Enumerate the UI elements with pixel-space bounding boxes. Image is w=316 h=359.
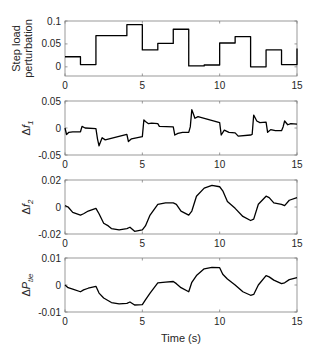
figure: 00.050.1051015Step loadperturbation-0.05… <box>0 0 316 359</box>
y-tick-label: 0.01 <box>42 253 62 264</box>
x-tick-label: 0 <box>62 80 68 91</box>
x-tick-label: 5 <box>140 159 146 170</box>
y-tick-label: 0 <box>55 61 61 72</box>
x-tick-label: 0 <box>62 159 68 170</box>
axes-box <box>65 101 297 155</box>
panel-3: -0.0200.02051015Δf2 <box>20 175 303 250</box>
x-tick-label: 5 <box>140 316 146 327</box>
y-axis-label: Δf2 <box>20 199 35 214</box>
panel-4: -0.0100.01051015ΔPtieTime (s) <box>20 253 303 345</box>
y-tick-label: 0 <box>55 280 61 291</box>
data-trace <box>65 267 297 305</box>
x-tick-label: 15 <box>291 316 303 327</box>
y-tick-label: -0.02 <box>38 229 61 240</box>
x-tick-label: 15 <box>291 80 303 91</box>
x-tick-label: 15 <box>291 238 303 249</box>
axes-box <box>65 180 297 234</box>
y-tick-label: 0 <box>55 202 61 213</box>
data-trace <box>65 110 297 146</box>
data-trace <box>65 25 297 67</box>
panel-1: 00.050.1051015Step loadperturbation <box>10 16 303 92</box>
x-tick-label: 10 <box>214 316 226 327</box>
y-tick-label: 0.1 <box>47 16 61 27</box>
y-axis-label: Δf1 <box>20 121 35 136</box>
data-trace <box>65 185 297 231</box>
x-tick-label: 5 <box>140 80 146 91</box>
y-axis-label: Step loadperturbation <box>10 19 34 78</box>
x-tick-label: 5 <box>140 238 146 249</box>
y-axis-label: ΔPtie <box>20 273 35 297</box>
y-tick-label: -0.05 <box>38 150 61 161</box>
x-tick-label: 0 <box>62 238 68 249</box>
y-tick-label: 0.05 <box>42 38 62 49</box>
x-axis-label: Time (s) <box>161 332 201 344</box>
y-tick-label: 0 <box>55 123 61 134</box>
x-tick-label: 10 <box>214 159 226 170</box>
axes-box <box>65 258 297 312</box>
x-tick-label: 10 <box>214 80 226 91</box>
y-tick-label: -0.01 <box>38 307 61 318</box>
panel-2: -0.0500.05051015Δf1 <box>20 96 303 171</box>
x-tick-label: 10 <box>214 238 226 249</box>
x-tick-label: 15 <box>291 159 303 170</box>
x-tick-label: 0 <box>62 316 68 327</box>
y-tick-label: 0.05 <box>42 96 62 107</box>
y-tick-label: 0.02 <box>42 175 62 186</box>
